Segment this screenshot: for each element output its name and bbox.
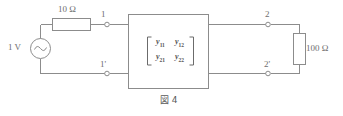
source-label: 1 V bbox=[8, 43, 21, 52]
terminal-label-1: 1 bbox=[101, 10, 106, 19]
terminal-label-1-prime: 1' bbox=[100, 60, 106, 69]
terminal-dot-2-prime bbox=[266, 71, 271, 76]
load-resistor-body bbox=[294, 34, 306, 65]
matrix-cell-y21: y21 bbox=[156, 53, 165, 63]
matrix-cell-y12: y12 bbox=[175, 38, 184, 48]
load-resistor-label: 100 Ω bbox=[306, 44, 328, 53]
matrix-grid: y11 y12 y21 y22 bbox=[151, 36, 189, 66]
circuit-figure: y11 y12 y21 y22 10 Ω 1 V 100 Ω 1 1' 2 2'… bbox=[0, 0, 343, 116]
terminal-dot-1-prime bbox=[105, 71, 110, 76]
series-resistor-label: 10 Ω bbox=[58, 5, 76, 14]
terminal-dot-2 bbox=[266, 22, 271, 27]
terminal-dot-1 bbox=[105, 22, 110, 27]
matrix-cell-y22: y22 bbox=[175, 53, 184, 63]
terminal-label-2: 2 bbox=[265, 10, 270, 19]
matrix-cell-y11: y11 bbox=[156, 38, 165, 48]
terminal-label-2-prime: 2' bbox=[264, 60, 270, 69]
figure-caption: 図 4 bbox=[160, 96, 178, 105]
y-parameter-matrix: y11 y12 y21 y22 bbox=[146, 36, 194, 66]
series-resistor-body bbox=[53, 19, 91, 31]
